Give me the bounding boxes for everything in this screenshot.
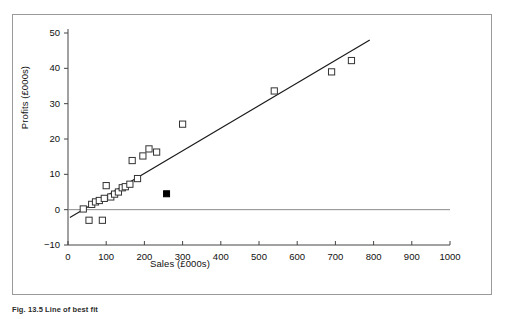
x-tick-label: 200 (127, 251, 161, 262)
x-tick-label: 500 (242, 251, 276, 262)
y-tick-label: −10 (34, 239, 60, 250)
x-tick-label: 300 (166, 251, 200, 262)
x-tick-label: 1000 (433, 251, 467, 262)
x-tick-label: 100 (89, 251, 123, 262)
x-tick-label: 900 (395, 251, 429, 262)
x-tick-label: 700 (318, 251, 352, 262)
y-tick-label: 30 (34, 98, 60, 109)
figure-caption: Fig. 13.5 Line of best fit (12, 305, 98, 314)
figure-page: Profits (£000s) Sales (£000s) −100102030… (0, 0, 508, 319)
y-tick-label: 20 (34, 133, 60, 144)
y-tick-label: 10 (34, 168, 60, 179)
y-axis-title: Profits (£000s) (19, 50, 30, 146)
x-tick-label: 400 (204, 251, 238, 262)
y-tick-label: 40 (34, 62, 60, 73)
x-tick-label: 0 (51, 251, 85, 262)
y-tick-label: 50 (34, 27, 60, 38)
x-tick-label: 800 (357, 251, 391, 262)
y-tick-label: 0 (34, 204, 60, 215)
x-tick-label: 600 (280, 251, 314, 262)
